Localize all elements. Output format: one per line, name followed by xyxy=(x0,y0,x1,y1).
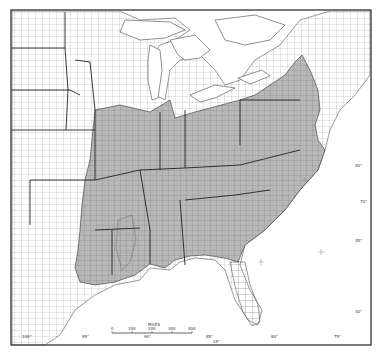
svg-text:90°: 90° xyxy=(144,334,151,339)
svg-text:70°: 70° xyxy=(360,199,367,204)
svg-text:25°: 25° xyxy=(213,339,220,344)
svg-text:400: 400 xyxy=(188,326,196,331)
svg-text:300: 300 xyxy=(168,326,176,331)
svg-text:30°: 30° xyxy=(355,309,362,314)
svg-text:100°: 100° xyxy=(22,334,32,339)
svg-text:95°: 95° xyxy=(82,334,89,339)
svg-text:35°: 35° xyxy=(355,238,362,243)
svg-text:200: 200 xyxy=(148,326,156,331)
svg-text:40°: 40° xyxy=(355,163,362,168)
svg-text:80°: 80° xyxy=(271,334,278,339)
svg-text:75°: 75° xyxy=(334,334,341,339)
county-map: MILES 0 100 200 300 400 100° 95° 90° 85°… xyxy=(0,0,377,358)
svg-text:100: 100 xyxy=(128,326,136,331)
